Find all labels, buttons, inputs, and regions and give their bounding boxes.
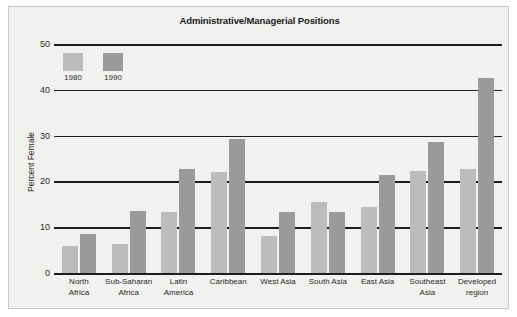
bar-group xyxy=(303,44,353,273)
x-axis-label: Sub-SaharanAfrica xyxy=(104,277,154,298)
x-axis-labels: NorthAfricaSub-SaharanAfricaLatinAmerica… xyxy=(54,277,502,298)
bar-1990 xyxy=(478,78,494,273)
chart-title: Administrative/Managerial Positions xyxy=(9,15,510,26)
bar-group xyxy=(402,44,452,273)
bar-1990 xyxy=(379,175,395,273)
y-tick-label: 0 xyxy=(45,268,50,278)
bar-1980 xyxy=(410,171,426,273)
y-tick-label: 30 xyxy=(40,131,50,141)
x-axis-label: South Asia xyxy=(303,277,353,298)
x-axis-label: Caribbean xyxy=(203,277,253,298)
bar-1980 xyxy=(112,244,128,273)
bar-group xyxy=(353,44,403,273)
bar-1990 xyxy=(279,212,295,273)
bar-group xyxy=(154,44,204,273)
legend-label: 1990 xyxy=(99,73,127,82)
bar-1990 xyxy=(329,212,345,273)
bar-group xyxy=(452,44,502,273)
legend-swatch xyxy=(63,53,83,71)
gridline-0: 0 xyxy=(54,273,502,275)
x-axis-label: Developedregion xyxy=(452,277,502,298)
chart-panel: Administrative/Managerial Positions Perc… xyxy=(8,6,509,309)
legend-item-1980: 1980 xyxy=(59,53,87,82)
bar-1980 xyxy=(460,169,476,273)
bar-1980 xyxy=(361,207,377,273)
x-axis-label: SoutheastAsia xyxy=(402,277,452,298)
bar-1980 xyxy=(311,202,327,273)
legend-swatch xyxy=(103,53,123,71)
legend-label: 1980 xyxy=(59,73,87,82)
y-axis-title: Percent Female xyxy=(26,107,36,217)
bar-1980 xyxy=(211,172,227,273)
y-tick-label: 20 xyxy=(40,176,50,186)
bar-1990 xyxy=(130,211,146,273)
bar-1980 xyxy=(161,212,177,273)
y-tick-label: 10 xyxy=(40,222,50,232)
chart-legend: 19801990 xyxy=(59,53,127,82)
bar-1990 xyxy=(229,139,245,273)
bar-group xyxy=(203,44,253,273)
x-axis-label: West Asia xyxy=(253,277,303,298)
x-axis-label: East Asia xyxy=(353,277,403,298)
y-tick-label: 50 xyxy=(40,39,50,49)
x-axis-label: NorthAfrica xyxy=(54,277,104,298)
bar-1980 xyxy=(62,246,78,273)
chart-figure: Administrative/Managerial Positions Perc… xyxy=(0,0,517,317)
legend-item-1990: 1990 xyxy=(99,53,127,82)
bar-1990 xyxy=(428,142,444,273)
bar-group xyxy=(253,44,303,273)
x-axis-label: LatinAmerica xyxy=(154,277,204,298)
bar-1990 xyxy=(179,169,195,273)
y-tick-label: 40 xyxy=(40,85,50,95)
bar-1990 xyxy=(80,234,96,273)
bar-1980 xyxy=(261,236,277,273)
